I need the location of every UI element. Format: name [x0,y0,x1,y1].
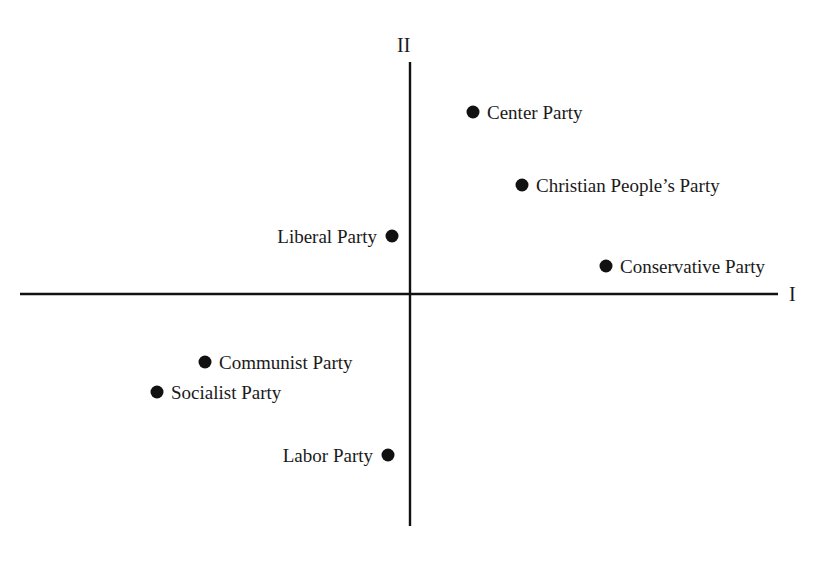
axis-label-I: I [789,283,796,305]
point-marker [467,106,480,119]
data-point: Christian People’s Party [516,175,721,196]
point-label: Liberal Party [277,226,377,247]
point-marker [151,386,164,399]
data-point: Liberal Party [277,226,398,247]
point-marker [199,356,212,369]
point-label: Conservative Party [620,256,766,277]
data-point: Communist Party [199,352,354,373]
point-marker [600,260,613,273]
point-marker [516,179,529,192]
point-marker [382,449,395,462]
point-label: Center Party [487,102,583,123]
party-position-chart: I II Center PartyChristian People’s Part… [0,0,825,562]
data-point: Labor Party [283,445,395,466]
data-points: Center PartyChristian People’s PartyLibe… [151,102,766,466]
point-label: Labor Party [283,445,374,466]
data-point: Socialist Party [151,382,282,403]
point-marker [386,230,399,243]
point-label: Christian People’s Party [536,175,720,196]
data-point: Center Party [467,102,584,123]
point-label: Communist Party [219,352,353,373]
axis-label-II: II [397,34,410,56]
axes: I II [20,34,796,526]
data-point: Conservative Party [600,256,766,277]
point-label: Socialist Party [171,382,282,403]
